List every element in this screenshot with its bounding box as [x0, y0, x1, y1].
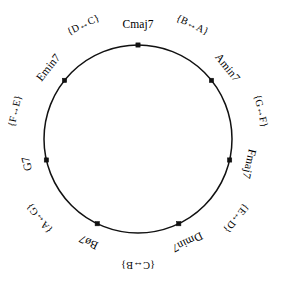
node-dot: [209, 78, 213, 82]
node-dot: [228, 158, 232, 162]
circle-diagram-figure: Cmaj7Amin7Fmaj7Dmin7Bø7G7Emin7 {B↔A}{G↔F…: [0, 0, 284, 284]
node-dot: [62, 78, 66, 82]
node-dot: [136, 43, 140, 47]
edge-label: {C↔B}: [121, 260, 155, 270]
node-dot: [177, 222, 181, 226]
node-dot: [95, 222, 99, 226]
node-dot: [44, 158, 48, 162]
chord-label: Cmaj7: [123, 19, 154, 31]
node-dot-group: [44, 43, 231, 226]
circle-outline: [44, 45, 232, 233]
chord-label: G7: [20, 156, 34, 172]
diagram-canvas: [0, 0, 284, 284]
